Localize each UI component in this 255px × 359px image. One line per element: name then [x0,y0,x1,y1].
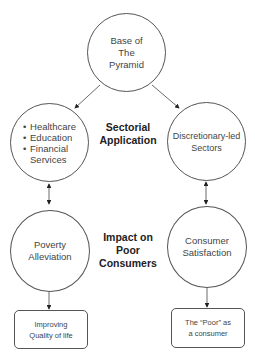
impact-label: Impact on Poor Consumers [95,231,161,270]
sector-item-healthcare: Healthcare [23,121,76,132]
impact-label-line-3: Consumers [95,257,161,270]
sector-item-financial: Financial [23,143,76,154]
impact-label-line-1: Impact on [95,231,161,244]
sectorial-application-label: Sectorial Application [92,121,164,147]
sector-list: Healthcare Education Financial Services [23,121,76,165]
sectorial-label-line-1: Sectorial [92,121,164,134]
left-outcome-line-2: Quality of life [29,330,72,341]
right-sector-line-2: Sectors [173,142,241,154]
left-sector-node: Healthcare Education Financial Services [10,103,89,182]
right-outcome-box: The “Poor” as a consumer [171,308,245,348]
sectorial-label-line-2: Application [92,134,164,147]
right-sector-node: Discretionary-led Sectors [167,102,246,181]
right-impact-line-2: Satisfaction [182,247,231,259]
left-impact-line-2: Alleviation [28,251,71,263]
left-outcome-box: Improving Quality of life [14,310,88,349]
left-impact-line-1: Poverty [28,239,71,251]
right-outcome-line-1: The “Poor” as [185,317,231,328]
sector-item-financial-cont: Services [23,154,76,165]
root-line-2: The [109,47,144,59]
arrow-root-to-left [75,85,100,108]
arrow-root-to-right [152,85,179,108]
right-impact-node: Consumer Satisfaction [167,206,247,288]
root-node: Base of The Pyramid [87,13,166,92]
impact-label-line-2: Poor [95,244,161,257]
sector-item-education: Education [23,132,76,143]
right-sector-line-1: Discretionary-led [173,130,241,142]
right-outcome-line-2: a consumer [185,328,231,339]
left-impact-node: Poverty Alleviation [10,210,90,292]
left-outcome-line-1: Improving [29,319,72,330]
root-line-3: Pyramid [109,59,144,71]
root-line-1: Base of [109,35,144,47]
right-impact-line-1: Consumer [182,235,231,247]
